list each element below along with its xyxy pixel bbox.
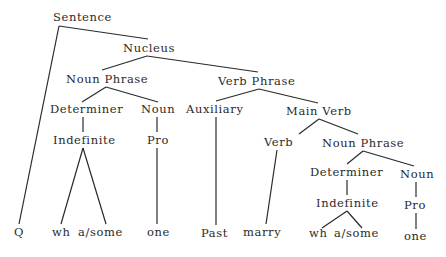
tree-labels: Sentence Nucleus Noun Phrase Verb Phrase… (14, 10, 434, 243)
edge-verb-marry (266, 150, 277, 224)
edge-nucleus-vp (147, 56, 258, 72)
edge-mainverb-np2 (319, 119, 358, 134)
leaf-marry: marry (243, 225, 281, 239)
edge-mainverb-verb (299, 119, 319, 134)
edge-sentence-q (19, 26, 59, 224)
leaf-one-1: one (147, 225, 170, 239)
node-sentence: Sentence (53, 10, 112, 24)
node-verb-phrase: Verb Phrase (217, 74, 295, 88)
edge-np1-det1 (82, 87, 106, 102)
leaf-q: Q (14, 225, 24, 239)
node-indefinite-2: Indefinite (316, 196, 379, 210)
node-noun-phrase-2: Noun Phrase (322, 136, 404, 150)
node-determiner-2: Determiner (310, 165, 383, 179)
node-noun-2: Noun (400, 167, 434, 181)
node-nucleus: Nucleus (123, 41, 175, 55)
edge-indef1-asome1 (83, 148, 106, 224)
edge-np2-noun2 (363, 151, 414, 166)
leaf-wh-2: wh (309, 226, 327, 240)
node-main-verb: Main Verb (286, 104, 352, 118)
edge-nucleus-np1 (102, 56, 147, 70)
leaf-one-2: one (404, 229, 427, 243)
edge-indef1-wh1 (61, 148, 83, 224)
node-noun-phrase-1: Noun Phrase (66, 72, 148, 86)
node-verb: Verb (263, 135, 293, 149)
leaf-a-some-1: a/some (78, 225, 123, 239)
node-pro-2: Pro (404, 198, 426, 212)
node-auxiliary: Auxiliary (185, 102, 243, 116)
edge-np2-det2 (347, 151, 363, 164)
node-noun-1: Noun (141, 102, 175, 116)
node-pro-1: Pro (147, 133, 169, 147)
node-indefinite-1: Indefinite (53, 133, 116, 147)
edge-vp-mainverb (259, 89, 318, 103)
leaf-past: Past (201, 226, 228, 240)
syntax-tree-diagram: Sentence Nucleus Noun Phrase Verb Phrase… (0, 0, 446, 257)
edge-vp-aux (216, 89, 259, 101)
edge-np1-noun1 (106, 87, 158, 102)
edge-sentence-nucleus (59, 26, 148, 39)
leaf-a-some-2: a/some (334, 226, 379, 240)
leaf-wh-1: wh (52, 225, 70, 239)
node-determiner-1: Determiner (50, 102, 123, 116)
